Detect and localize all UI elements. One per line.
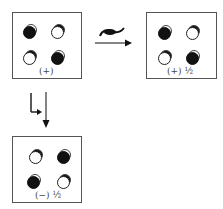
arrow-down-icon [41,92,51,130]
arrow-right-icon [95,39,135,47]
panel-label: (+) ½ [167,66,193,76]
panel-rotated: (+) ½ [146,12,217,79]
dot-top-left-open [29,151,42,164]
panel-label: (−) ½ [35,190,61,200]
dot-top-right-open [51,26,64,39]
rotation-glyph-icon [98,26,128,40]
dot-bottom-left-open [158,52,171,65]
dot-top-right-open [186,27,199,40]
panel-label: (+) [39,66,54,76]
dot-bottom-right-filled [186,52,199,65]
dot-bottom-left-open [23,52,36,65]
dot-bottom-right-filled [51,52,64,65]
dot-top-left-filled [158,27,171,40]
dot-top-right-filled [57,151,70,164]
dot-top-left-filled [23,26,36,39]
dot-bottom-left-filled [27,176,40,189]
panel-original: (+) [12,12,82,79]
panel-reflected: (−) ½ [12,136,82,203]
dot-bottom-right-open [57,176,70,189]
